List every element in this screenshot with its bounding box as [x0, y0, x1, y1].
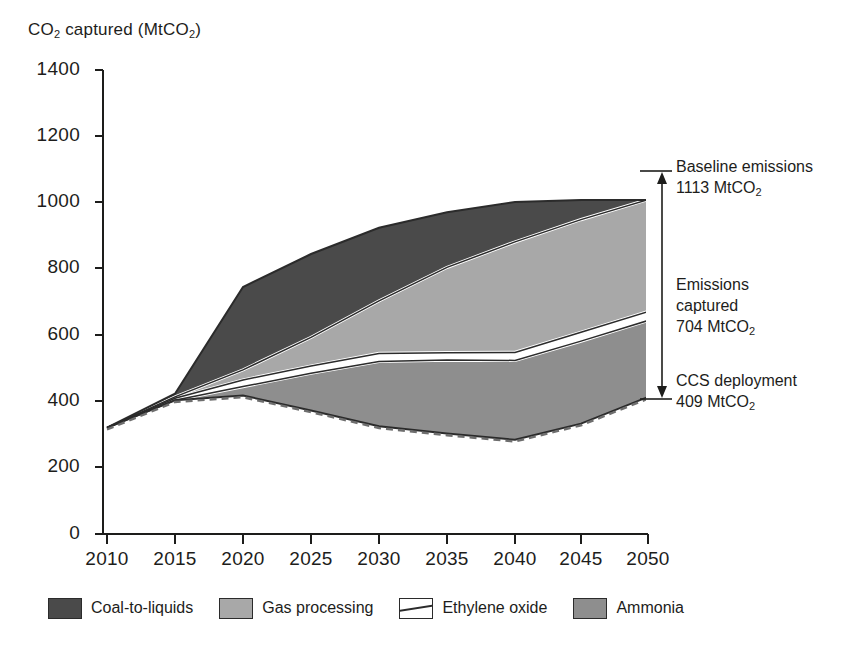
x-tick-label-2025: 2025 [276, 548, 346, 570]
legend-swatch-line [400, 605, 434, 612]
y-axis-ticks [95, 70, 103, 534]
legend-label-gas-processing: Gas processing [262, 599, 373, 617]
annotation-captured-line-2: captured [676, 295, 755, 316]
annotation-ccs-value: 409 MtCO [676, 393, 749, 410]
annotation-baseline-line-2: 1113 MtCO2 [676, 177, 813, 200]
stacked-areas [107, 200, 647, 440]
annotation-captured-line-3: 704 MtCO2 [676, 316, 755, 339]
x-tick-label-2050: 2050 [613, 548, 683, 570]
y-axis-title-sub-1: 2 [54, 28, 60, 40]
chart-legend: Coal-to-liquids Gas processing Ethylene … [48, 592, 808, 624]
annotation-baseline-line-1: Baseline emissions [676, 156, 813, 177]
y-tick-label-1000: 1000 [22, 190, 80, 212]
x-axis-ticks [107, 534, 648, 544]
y-axis-title-end: ) [195, 20, 201, 39]
x-tick-label-2015: 2015 [140, 548, 210, 570]
y-tick-label-0: 0 [22, 522, 80, 544]
y-axis-title-sub-2: 2 [189, 28, 195, 40]
legend-item-gas-processing[interactable]: Gas processing [219, 598, 373, 619]
legend-swatch-ammonia [573, 598, 607, 619]
x-tick-label-2010: 2010 [72, 548, 142, 570]
legend-label-coal-to-liquids: Coal-to-liquids [91, 599, 193, 617]
x-tick-label-2035: 2035 [412, 548, 482, 570]
annotation-baseline-emissions: Baseline emissions 1113 MtCO2 [676, 156, 813, 200]
annotation-emissions-captured: Emissions captured 704 MtCO2 [676, 274, 755, 339]
legend-swatch-coal-to-liquids [48, 598, 82, 619]
legend-label-ethylene-oxide: Ethylene oxide [442, 599, 547, 617]
legend-item-ethylene-oxide[interactable]: Ethylene oxide [399, 598, 547, 619]
x-tick-label-2030: 2030 [344, 548, 414, 570]
y-tick-label-600: 600 [22, 323, 80, 345]
y-tick-label-200: 200 [22, 455, 80, 477]
y-axis-title-co: CO [28, 20, 54, 39]
annotation-baseline-value: 1113 MtCO [676, 179, 755, 196]
bracket-arrow-up [657, 172, 667, 184]
annotation-ccs-sub: 2 [749, 400, 755, 412]
annotation-ccs-line-2: 409 MtCO2 [676, 391, 797, 414]
annotation-ccs-line-1: CCS deployment [676, 370, 797, 391]
y-tick-label-400: 400 [22, 389, 80, 411]
legend-label-ammonia: Ammonia [616, 599, 684, 617]
annotation-captured-value: 704 MtCO [676, 318, 749, 335]
x-tick-label-2040: 2040 [480, 548, 550, 570]
legend-swatch-ethylene-oxide [399, 598, 433, 619]
y-tick-label-800: 800 [22, 256, 80, 278]
x-tick-label-2020: 2020 [208, 548, 278, 570]
y-tick-label-1200: 1200 [22, 124, 80, 146]
annotation-captured-sub: 2 [749, 325, 755, 337]
x-tick-label-2045: 2045 [546, 548, 616, 570]
bracket-arrow-down [657, 386, 667, 398]
legend-item-ammonia[interactable]: Ammonia [573, 598, 684, 619]
annotation-ccs-deployment: CCS deployment 409 MtCO2 [676, 370, 797, 414]
annotation-captured-line-1: Emissions [676, 274, 755, 295]
legend-item-coal-to-liquids[interactable]: Coal-to-liquids [48, 598, 193, 619]
y-tick-label-1400: 1400 [22, 58, 80, 80]
y-axis-title: CO2 captured (MtCO2) [28, 20, 201, 40]
annotation-baseline-sub: 2 [755, 186, 761, 198]
y-axis-title-mid: captured (MtCO [60, 20, 189, 39]
legend-swatch-gas-processing [219, 598, 253, 619]
